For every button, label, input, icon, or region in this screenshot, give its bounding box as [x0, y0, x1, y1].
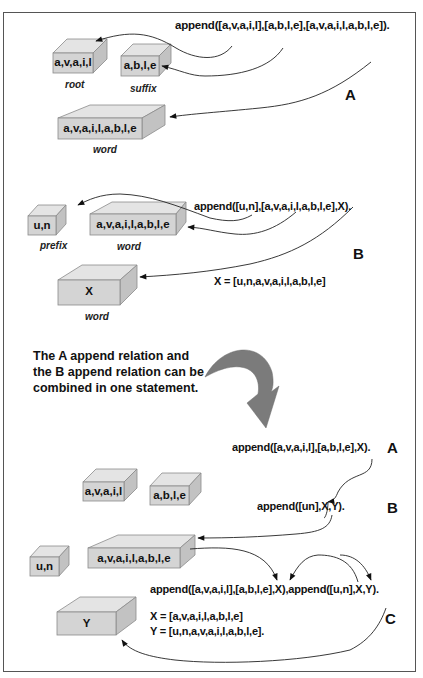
note-line-2: the B append relation can be — [33, 364, 204, 380]
box-word-a-text: a,v,a,i,l,a,b,l,e — [58, 122, 142, 134]
section-label-b: B — [353, 245, 364, 262]
box-x-c-text: a,v,a,i,l,a,b,l,e — [88, 552, 180, 564]
arrow-c-stem — [350, 608, 386, 650]
arrow-a-to-b — [328, 459, 372, 502]
statement-combined: append([a,v,a,i,l],[a,b,l,e],X),append([… — [150, 583, 379, 595]
combine-big-arrow — [205, 350, 279, 428]
combine-note: The A append relation and the B append r… — [33, 348, 204, 396]
caption-word-a: word — [93, 144, 117, 155]
diagram-graphics: .bf { fill: #d4d4d4; stroke: #8a8a8a; st… — [0, 0, 423, 678]
box-root-a-text: a,v,a,i,l — [53, 56, 93, 68]
caption-root: root — [65, 79, 84, 90]
section-label-c-b: B — [387, 499, 398, 516]
section-label-c: C — [385, 610, 396, 627]
arrow-word-b — [188, 212, 296, 234]
box-prefix-b-text: u,n — [28, 219, 56, 231]
caption-prefix: prefix — [40, 240, 67, 251]
arrow-suffix-a — [162, 48, 283, 76]
diagram-stage: .bf { fill: #d4d4d4; stroke: #8a8a8a; st… — [0, 0, 423, 678]
caption-word-b: word — [117, 241, 141, 252]
result-y: Y = [u,n,a,v,a,i,l,a,b,l,e]. — [150, 625, 264, 637]
note-line-1: The A append relation and — [33, 348, 204, 364]
box-word-b-text: a,v,a,i,l,a,b,l,e — [90, 218, 176, 230]
arrow-combined-link — [290, 555, 358, 582]
result-b: X = [u,n,a,v,a,i,l,a,b,l,e] — [214, 275, 325, 287]
statement-b: append([u,n],[a,v,a,i,l,a,b,l,e],X). — [194, 200, 351, 212]
statement-c-a: append([a,v,a,i,l],[a,b,l,e],X). — [232, 441, 370, 453]
box-x-b-text: X — [58, 285, 120, 297]
arrow-to-y-arg — [340, 555, 371, 580]
result-x: X = [a,v,a,i,l,a,b,l,e] — [150, 610, 243, 622]
arrow-x-to-combined-1 — [190, 548, 277, 580]
box-suffix-a-text: a,b,l,e — [121, 59, 159, 71]
caption-word-x: word — [85, 311, 109, 322]
caption-suffix: suffix — [130, 83, 157, 94]
arrow-to-y — [122, 640, 350, 662]
note-line-3: combined in one statement. — [33, 380, 204, 396]
box-y-c — [57, 597, 136, 635]
box-suffix-c-text: a,b,l,e — [150, 489, 189, 501]
statement-a: append([a,v,a,i,l],[a,b,l,e],[a,v,a,i,l,… — [175, 19, 390, 31]
arrow-word-a — [170, 62, 371, 117]
box-y-c-text: Y — [57, 617, 116, 629]
statement-c-b: append([un],X,Y). — [257, 500, 345, 512]
box-prefix-c-text: u,n — [30, 560, 59, 572]
box-root-c-text: a,v,a,i,l — [83, 485, 124, 497]
section-label-a: A — [345, 86, 356, 103]
section-label-c-a: A — [387, 439, 398, 456]
arrow-b-to-x — [198, 515, 332, 538]
